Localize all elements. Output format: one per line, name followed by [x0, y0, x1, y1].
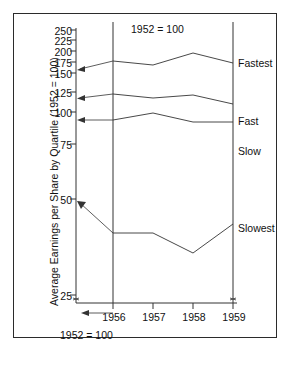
leader-arrowhead-fast	[77, 95, 85, 101]
series-line-fastest	[113, 53, 233, 65]
series-line-slow	[113, 113, 233, 122]
chart-plot-area	[0, 0, 303, 365]
leader-arrow-slowest	[80, 203, 113, 233]
series-line-fast	[113, 94, 233, 104]
leader-arrowhead-fastest	[77, 66, 85, 72]
series-line-slowest	[113, 224, 233, 253]
leader-arrowhead-slow	[77, 117, 85, 123]
leader-arrowhead-slowest	[77, 201, 86, 209]
x-axis-left-arrowhead	[81, 310, 89, 316]
